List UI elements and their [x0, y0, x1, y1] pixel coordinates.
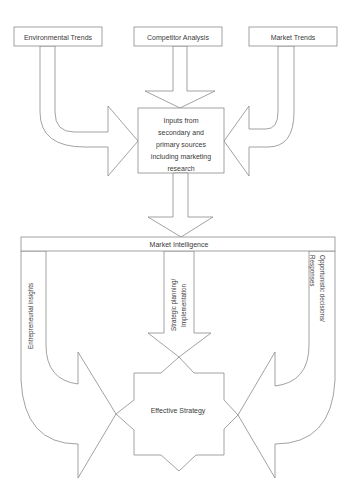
- effective-strategy-star: Effective Strategy: [116, 357, 238, 471]
- inputs-line: Inputs from: [163, 117, 198, 125]
- box-market-trends: Market Trends: [249, 27, 337, 46]
- inputs-to-intelligence-arrow: [148, 173, 213, 237]
- strategic-planning-label-2: Implementation: [180, 283, 188, 327]
- inputs-line: including marketing: [151, 153, 211, 161]
- inputs-line: research: [167, 165, 194, 172]
- box-label: Market Trends: [271, 34, 316, 41]
- box-label: Environmental Trends: [24, 34, 93, 41]
- diagram-canvas: Environmental Trends Competitor Analysis…: [0, 0, 355, 503]
- outcome-label: Effective Strategy: [151, 407, 206, 415]
- bar-label: Market Intelligence: [150, 241, 209, 249]
- market-trends-to-inputs-arrow: [224, 46, 294, 176]
- box-competitor-analysis: Competitor Analysis: [134, 27, 222, 46]
- entrepreneurial-insights-label: Entrepreneurial insights: [27, 283, 35, 349]
- inputs-line: primary sources: [156, 141, 206, 149]
- box-environmental-trends: Environmental Trends: [14, 27, 102, 46]
- opportunistic-decisions-label-1: Opportunistic decisions/: [318, 255, 326, 322]
- opportunistic-decisions-label-2: Responses: [308, 255, 316, 287]
- box-label: Competitor Analysis: [147, 34, 209, 42]
- environmental-to-inputs-arrow: [40, 46, 138, 176]
- market-intelligence-bar: Market Intelligence: [21, 237, 335, 251]
- entrepreneurial-insights-arrow: [21, 251, 116, 478]
- box-inputs: Inputs from secondary and primary source…: [138, 108, 224, 173]
- inputs-line: secondary and: [158, 129, 204, 137]
- strategic-planning-label-1: Strategic planning/: [170, 279, 178, 331]
- competitor-to-inputs-arrow: [145, 46, 215, 108]
